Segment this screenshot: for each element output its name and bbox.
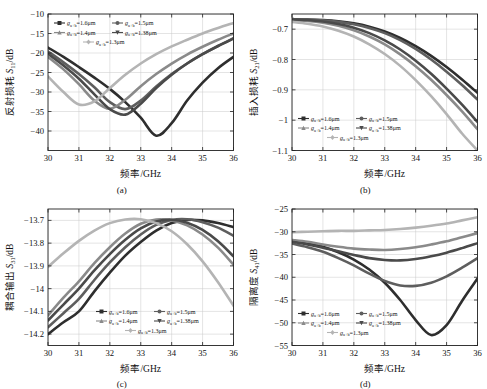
svg-text:−30: −30	[274, 226, 287, 236]
svg-text:36: 36	[229, 153, 238, 163]
svg-text:32: 32	[106, 153, 115, 163]
plot-area-b: 30313233343536−0.7−0.8−0.9−1−1.1频率/GHz插入…	[244, 0, 487, 195]
svg-text:−25: −25	[274, 204, 287, 214]
svg-text:33: 33	[136, 348, 145, 358]
svg-text:−13.9: −13.9	[24, 260, 44, 270]
subplot-label-a: (a)	[0, 185, 244, 195]
svg-text:插入损耗 S21/dB: 插入损耗 S21/dB	[248, 49, 260, 116]
subplot-label-d: (d)	[244, 379, 487, 389]
svg-text:−40: −40	[274, 272, 287, 282]
svg-text:31: 31	[75, 348, 84, 358]
svg-text:31: 31	[75, 153, 84, 163]
subplot-label-c: (c)	[0, 379, 244, 389]
svg-text:34: 34	[167, 153, 176, 163]
svg-text:35: 35	[198, 153, 207, 163]
svg-text:−13.8: −13.8	[24, 238, 44, 248]
svg-text:32: 32	[349, 153, 358, 163]
svg-text:36: 36	[229, 348, 238, 358]
svg-text:−40: −40	[31, 126, 44, 136]
plot-area-a: 30313233343536−10−15−20−25−30−35−40频率/GH…	[0, 0, 244, 195]
svg-text:隔离度 S41/dB: 隔离度 S41/dB	[248, 248, 260, 305]
svg-text:−45: −45	[274, 295, 287, 305]
svg-text:35: 35	[442, 348, 451, 358]
svg-text:31: 31	[318, 153, 327, 163]
svg-text:32: 32	[349, 348, 358, 358]
svg-text:30: 30	[287, 348, 296, 358]
svg-text:−14.2: −14.2	[24, 329, 44, 339]
subplot-label-b: (b)	[244, 185, 487, 195]
svg-text:30: 30	[44, 153, 53, 163]
subplot-c: 30313233343536−13.7−13.8−13.9−14−14.1−14…	[0, 195, 244, 389]
svg-text:35: 35	[442, 153, 451, 163]
figure-grid: 30313233343536−10−15−20−25−30−35−40频率/GH…	[0, 0, 487, 389]
svg-text:30: 30	[44, 348, 53, 358]
svg-text:31: 31	[318, 348, 327, 358]
svg-text:33: 33	[380, 348, 389, 358]
svg-text:−14: −14	[31, 283, 45, 293]
svg-text:−14.1: −14.1	[24, 306, 44, 316]
svg-text:−35: −35	[31, 107, 44, 117]
svg-text:耦合输出 S31/dB: 耦合输出 S31/dB	[4, 243, 16, 310]
svg-text:32: 32	[106, 348, 115, 358]
svg-text:−0.9: −0.9	[272, 85, 288, 95]
subplot-d: 30313233343536−25−30−35−40−45−50−55频率/GH…	[244, 195, 487, 389]
svg-text:−30: −30	[31, 87, 44, 97]
subplot-a: 30313233343536−10−15−20−25−30−35−40频率/GH…	[0, 0, 244, 195]
plot-area-c: 30313233343536−13.7−13.8−13.9−14−14.1−14…	[0, 195, 244, 389]
svg-text:36: 36	[473, 348, 482, 358]
svg-text:33: 33	[136, 153, 145, 163]
svg-text:34: 34	[411, 153, 420, 163]
svg-text:30: 30	[287, 153, 296, 163]
svg-text:频率/GHz: 频率/GHz	[364, 362, 405, 373]
plot-area-d: 30313233343536−25−30−35−40−45−50−55频率/GH…	[244, 195, 487, 389]
svg-text:频率/GHz: 频率/GHz	[364, 168, 405, 179]
svg-text:−0.8: −0.8	[272, 55, 288, 65]
svg-text:33: 33	[380, 153, 389, 163]
svg-text:频率/GHz: 频率/GHz	[120, 168, 161, 179]
svg-text:−20: −20	[31, 48, 44, 58]
subplot-b: 30313233343536−0.7−0.8−0.9−1−1.1频率/GHz插入…	[244, 0, 487, 195]
svg-text:−1.1: −1.1	[272, 146, 288, 156]
svg-text:34: 34	[411, 348, 420, 358]
svg-text:−1: −1	[278, 115, 287, 125]
svg-text:−35: −35	[274, 249, 287, 259]
svg-text:反射损耗 S11/dB: 反射损耗 S11/dB	[4, 49, 16, 116]
svg-text:−10: −10	[31, 9, 44, 19]
svg-text:−0.7: −0.7	[272, 24, 288, 34]
svg-text:−15: −15	[31, 29, 44, 39]
svg-text:34: 34	[167, 348, 176, 358]
svg-text:−50: −50	[274, 317, 287, 327]
svg-text:−25: −25	[31, 68, 44, 78]
svg-text:36: 36	[473, 153, 482, 163]
svg-text:−55: −55	[274, 340, 287, 350]
svg-text:频率/GHz: 频率/GHz	[120, 362, 161, 373]
svg-text:−13.7: −13.7	[24, 215, 45, 225]
svg-text:35: 35	[198, 348, 207, 358]
